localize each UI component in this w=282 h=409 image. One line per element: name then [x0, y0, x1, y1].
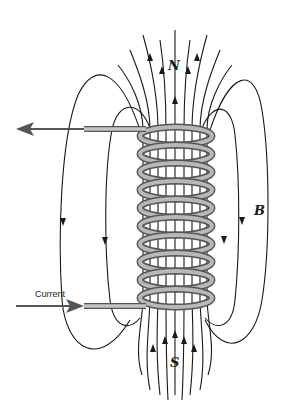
arrow-up-icon: [181, 336, 187, 344]
arrow-down-icon: [102, 237, 108, 245]
lead-wire-top: [16, 122, 146, 136]
current-label: Current: [35, 289, 66, 299]
arrow-up-icon: [172, 96, 178, 104]
arrow-up-icon: [159, 66, 165, 74]
magnetic-field-label: B: [253, 203, 265, 218]
arrow-up-icon: [194, 53, 200, 61]
arrow-down-icon: [221, 236, 227, 244]
arrow-up-icon: [191, 344, 197, 352]
arrow-up-icon: [162, 336, 168, 344]
solenoid-coil: [140, 127, 212, 307]
arrow-up-icon: [150, 344, 156, 352]
north-pole-label: N: [167, 58, 181, 73]
coil-turn: [140, 289, 212, 307]
arrow-down-icon: [239, 217, 245, 225]
south-pole-label: S: [170, 355, 179, 370]
arrow-up-icon: [172, 330, 178, 338]
solenoid-diagram: N S B Current: [0, 0, 282, 409]
arrow-up-icon: [185, 66, 191, 74]
lead-wire-bottom: [16, 299, 146, 313]
